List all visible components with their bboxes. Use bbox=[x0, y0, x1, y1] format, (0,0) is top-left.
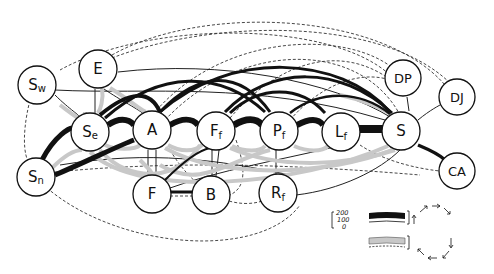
svg-text:DJ: DJ bbox=[450, 90, 464, 105]
node-dp[interactable]: DP bbox=[385, 60, 421, 96]
scale-bracket bbox=[332, 212, 334, 228]
node-dj[interactable]: DJ bbox=[439, 79, 475, 115]
node-lf[interactable]: Lf bbox=[322, 113, 360, 151]
svg-text:S: S bbox=[396, 122, 406, 140]
svg-text:A: A bbox=[147, 121, 158, 139]
node-pf[interactable]: Pf bbox=[260, 112, 298, 150]
node-a[interactable]: A bbox=[133, 111, 171, 149]
node-b[interactable]: B bbox=[192, 176, 230, 214]
node-ca[interactable]: CA bbox=[439, 153, 475, 189]
arrow-up-icon bbox=[412, 215, 416, 224]
node-sw[interactable]: Sw bbox=[18, 66, 56, 104]
legend-stippled-band bbox=[369, 237, 405, 244]
clockwise-arrows-icon bbox=[420, 204, 450, 214]
node-se[interactable]: Se bbox=[71, 113, 109, 151]
svg-text:CA: CA bbox=[448, 164, 466, 179]
svg-text:DP: DP bbox=[394, 71, 412, 86]
legend-solid-band bbox=[369, 212, 405, 219]
arc-diagram: Sw E Se Sn A Ff Pf Lf S DP DJ bbox=[0, 0, 494, 274]
svg-text:E: E bbox=[93, 60, 102, 78]
legend: 200 100 0 bbox=[332, 204, 453, 260]
node-ff[interactable]: Ff bbox=[197, 112, 235, 150]
node-s[interactable]: S bbox=[382, 112, 420, 150]
node-sn[interactable]: Sn bbox=[17, 158, 55, 196]
node-f[interactable]: F bbox=[133, 175, 171, 213]
diagram-canvas: Sw E Se Sn A Ff Pf Lf S DP DJ bbox=[0, 0, 494, 274]
svg-text:B: B bbox=[206, 186, 216, 204]
scale-label-0: 0 bbox=[342, 223, 346, 231]
node-rf[interactable]: Rf bbox=[259, 174, 297, 212]
svg-text:F: F bbox=[148, 185, 157, 203]
counterclockwise-arrows-icon bbox=[418, 238, 453, 260]
nodes: Sw E Se Sn A Ff Pf Lf S DP DJ bbox=[17, 50, 475, 214]
node-e[interactable]: E bbox=[79, 50, 117, 88]
